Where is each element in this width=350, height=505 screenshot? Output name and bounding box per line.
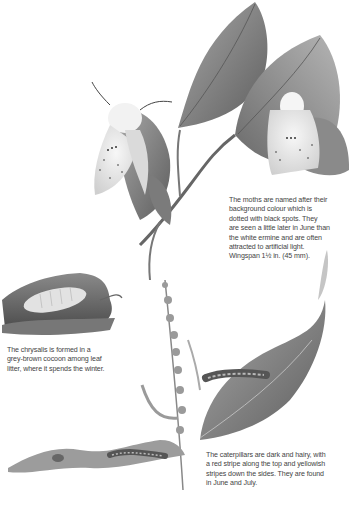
- caption-caterpillars-line: The caterpillars are dark and hairy, wit…: [206, 451, 326, 460]
- chrysalis-in-cocoon: [2, 273, 122, 335]
- caption-caterpillars-line: a red stripe along the top and yellowish: [206, 460, 326, 469]
- caption-moths-line: the white ermine and are often: [229, 234, 330, 243]
- caption-caterpillars-line: stripes down the sides. They are found: [206, 470, 326, 479]
- caption-moths-line: are seen a little later in June than: [229, 224, 330, 233]
- caterpillar-lower-1: [52, 454, 64, 462]
- caption-moths-line: attracted to artificial light.: [229, 243, 330, 252]
- caption-moths-line: The moths are named after their: [229, 196, 330, 205]
- caption-chrysalis-line: The chrysalis is formed in a: [7, 346, 104, 355]
- caption-moths-line: Wingspan 1½ in. (45 mm).: [229, 252, 330, 261]
- caption-moths-line: background colour which is: [229, 205, 330, 214]
- dock-leaf: [200, 300, 325, 440]
- caption-chrysalis-line: grey-brown cocoon among leaf: [7, 355, 104, 364]
- caption-moths-line: dotted with black spots. They: [229, 215, 330, 224]
- caption-chrysalis-line: litter, where it spends the winter.: [7, 365, 104, 374]
- caption-caterpillars-line: in June and July.: [206, 479, 326, 488]
- caption-moths: The moths are named after their backgrou…: [229, 196, 330, 262]
- caption-chrysalis: The chrysalis is formed in a grey-brown …: [7, 346, 104, 374]
- caption-caterpillars: The caterpillars are dark and hairy, wit…: [206, 451, 326, 489]
